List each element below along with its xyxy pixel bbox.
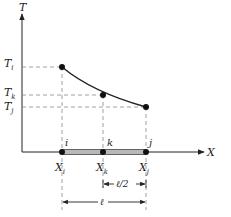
curve-node-j bbox=[143, 104, 149, 110]
node-label-i: i bbox=[65, 137, 68, 148]
node-label-j: j bbox=[147, 137, 152, 148]
length-label: ℓ bbox=[100, 197, 104, 207]
node-label-k: k bbox=[107, 137, 113, 148]
svg-text:Xk: Xk bbox=[95, 161, 108, 176]
temperature-curve bbox=[62, 67, 146, 107]
svg-text:Ti: Ti bbox=[4, 57, 14, 72]
y-axis-label: T bbox=[19, 1, 28, 14]
svg-text:Tk: Tk bbox=[4, 86, 16, 101]
t-label-i: Ti bbox=[4, 57, 14, 72]
axis-node-k bbox=[100, 149, 106, 155]
dimension-half-length: ℓ/2 bbox=[103, 179, 146, 189]
x-axis-label: X bbox=[206, 146, 216, 159]
t-label-j: Tj bbox=[4, 100, 14, 115]
curve-node-i bbox=[59, 64, 65, 70]
half-length-label: ℓ/2 bbox=[116, 179, 129, 189]
axis-node-i bbox=[59, 149, 65, 155]
svg-text:Xi: Xi bbox=[54, 161, 65, 176]
curve-node-k bbox=[100, 92, 106, 98]
t-label-k: Tk bbox=[4, 86, 16, 101]
svg-text:Tj: Tj bbox=[4, 100, 14, 115]
element-temperature-diagram: T X Ti Tk Tj i k j Xi Xk bbox=[0, 0, 231, 217]
dimension-length: ℓ bbox=[63, 197, 145, 207]
x-label-j: Xj bbox=[138, 161, 150, 176]
x-label-k: Xk bbox=[95, 161, 108, 176]
x-label-i: Xi bbox=[54, 161, 65, 176]
svg-text:Xj: Xj bbox=[138, 161, 150, 176]
axis-node-j bbox=[143, 149, 149, 155]
